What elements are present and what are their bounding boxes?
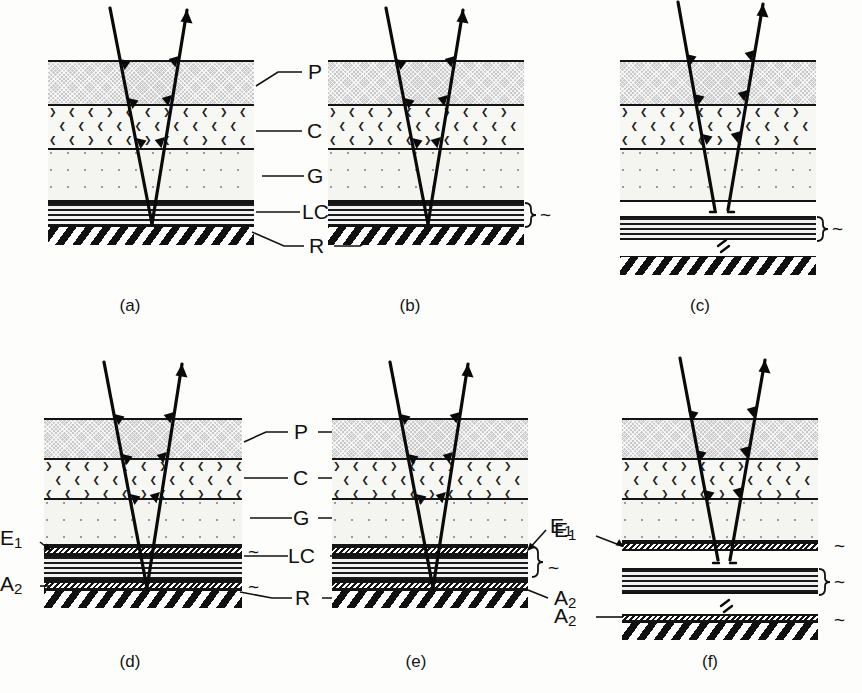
tilde-marker-d-lower: ~ [248,577,259,596]
ray-overlay-a [48,60,254,245]
panel-c: ❯❮❮❯❮❮❯❮❮❯❮❮❮❮❮❮❮❮❮❮❮❮❯❮❮❯❮❮❯❮ ~ [620,60,816,255]
center-label-P-bottom: P [294,420,308,444]
figure-canvas: ❯❮❮❯❮❮❯❮❮❯❮❮❮❮❮❮❮❮❮❮❮❮❮❯❮❮❯❮❮❯❮❮ (a) [0,0,862,693]
tilde-marker-e: ~ [548,558,559,577]
panel-caption-e: (e) [396,652,436,672]
panel-caption-d: (d) [110,652,150,672]
center-label-LC-top: LC [302,200,329,224]
center-label-G-bottom: G [293,506,309,530]
center-label-C-top: C [307,119,322,143]
panel-caption-b: (b) [390,296,430,316]
side-label-E1-f: E1 [554,518,576,542]
panel-d: ❯❮❮❯❮❮❯❮❮❯❮❮❮❮❮❮❮❮❮❮❮❮❮❯❮❮❯❮❮❯❮❮ E1 A2 ~ [44,418,242,608]
panel-caption-c: (c) [680,296,720,316]
center-label-R-top: R [309,234,324,258]
side-label-A2-d: A2 [0,572,22,596]
ray-overlay-b [328,60,568,245]
panel-caption-f: (f) [690,652,730,672]
ray-overlay-e [332,418,582,608]
panel-caption-a: (a) [110,296,150,316]
ray-overlay-c [620,60,860,275]
tilde-marker-f-upper: ~ [834,536,845,555]
side-label-A2-f: A2 [554,604,576,628]
panel-f: ❯❮❮❯❮❮❯❮❮❯❮❮❮❮❮❮❮❮❮❮❮❮❯❮❮❯❮❮❯❮ [622,418,818,626]
ray-overlay-d [44,418,242,608]
panel-e: ❯❮❮❯❮❮❯❮❮❯❮❮❮❮❮❮❮❮❮❮❮❮❯❮❮❯❮❮❯❮ E1 [332,418,528,608]
center-label-P-top: P [308,60,322,84]
panel-b: ❯❮❮❯❮❮❯❮❮❯❮❮❮❮❮❮❮❮❮❮❮❮❯❮❮❯❮❮❯❮ ~ [328,60,524,245]
ray-overlay-f [622,418,862,648]
panel-a: ❯❮❮❯❮❮❯❮❮❯❮❮❮❮❮❮❮❮❮❮❮❮❮❯❮❮❯❮❮❯❮❮ [48,60,254,245]
tilde-marker-d-upper: ~ [248,542,259,561]
tilde-marker-c: ~ [832,219,843,238]
center-label-C-bottom: C [293,466,308,490]
tilde-marker-f-middle: ~ [834,572,845,591]
center-label-G-top: G [307,164,323,188]
center-label-LC-bottom: LC [288,544,315,568]
side-label-E1-d: E1 [0,526,22,550]
tilde-marker-f-lower: ~ [834,610,845,629]
tilde-marker-b: ~ [540,205,551,224]
center-label-R-bottom: R [295,586,310,610]
